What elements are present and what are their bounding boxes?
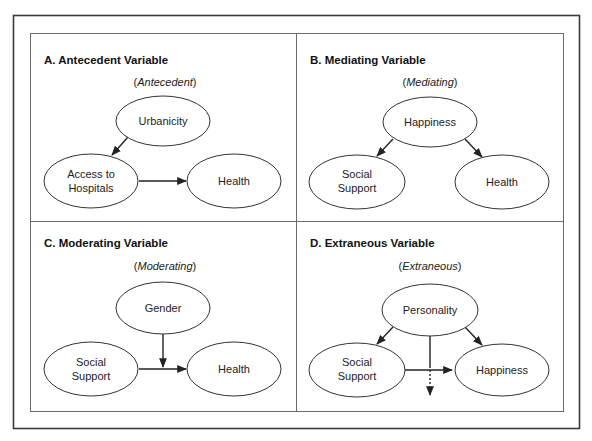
panel-role-label: (Moderating) (134, 260, 196, 272)
panel-role-label: (Antecedent) (134, 76, 197, 88)
node-label-line2: Support (72, 370, 111, 382)
panel-extraneous: D. Extraneous Variable (Extraneous) Pers… (309, 237, 549, 397)
node-label: Happiness (476, 364, 528, 376)
panel-title: B. Mediating Variable (310, 54, 426, 66)
node-label-line1: Social (76, 356, 106, 368)
node-label: Health (486, 176, 518, 188)
node-access-to-hospitals: Access to Hospitals (44, 154, 138, 208)
node-happiness: Happiness (383, 97, 477, 147)
node-health: Health (455, 155, 549, 209)
panel-role-label: (Mediating) (402, 76, 457, 88)
edge-personality-to-social-support (377, 327, 393, 344)
variable-types-diagram: A. Antecedent Variable (Antecedent) Urba… (0, 0, 592, 441)
node-label-line2: Support (338, 370, 377, 382)
node-urbanicity: Urbanicity (116, 96, 210, 146)
panel-mediating: B. Mediating Variable (Mediating) Happin… (309, 54, 549, 209)
node-label: Personality (403, 304, 458, 316)
node-label: Happiness (404, 116, 456, 128)
edge-happiness-to-health (465, 139, 482, 157)
edge-happiness-to-social-support (377, 139, 393, 156)
panel-title: A. Antecedent Variable (44, 54, 168, 66)
node-health: Health (187, 342, 281, 396)
node-label-line1: Social (342, 168, 372, 180)
node-social-support: Social Support (309, 155, 405, 209)
node-label-line2: Hospitals (68, 182, 114, 194)
panel-role-label: (Extraneous) (399, 260, 462, 272)
node-social-support: Social Support (309, 343, 405, 397)
edge-personality-to-happiness (465, 327, 482, 345)
node-label: Health (218, 363, 250, 375)
node-personality: Personality (382, 284, 478, 336)
node-label: Health (218, 175, 250, 187)
node-label: Urbanicity (139, 115, 188, 127)
panel-title: D. Extraneous Variable (310, 237, 435, 249)
panel-moderating: C. Moderating Variable (Moderating) Gend… (44, 237, 281, 396)
node-happiness: Happiness (455, 344, 549, 396)
node-label-line1: Social (342, 356, 372, 368)
node-gender: Gender (116, 282, 210, 334)
node-social-support: Social Support (44, 342, 138, 396)
node-label-line1: Access to (67, 168, 115, 180)
node-label-line2: Support (338, 182, 377, 194)
panel-antecedent: A. Antecedent Variable (Antecedent) Urba… (44, 54, 281, 208)
node-health: Health (187, 154, 281, 208)
node-label: Gender (145, 302, 182, 314)
edge-urbanicity-to-access (112, 137, 128, 155)
panel-title: C. Moderating Variable (44, 237, 168, 249)
